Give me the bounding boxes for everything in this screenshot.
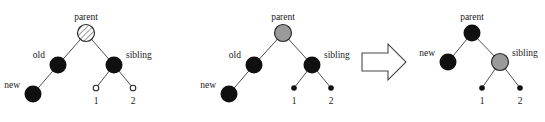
node-old[interactable] xyxy=(50,57,67,74)
label-parent: parent xyxy=(460,12,484,22)
label-new: new xyxy=(200,80,216,90)
node-new[interactable] xyxy=(440,54,457,71)
node-leaf-2[interactable] xyxy=(328,85,334,91)
node-leaf-2[interactable] xyxy=(517,85,523,91)
node-new[interactable] xyxy=(221,86,238,103)
figure-root: parent old sibling new 1 2 parent old si… xyxy=(0,0,545,122)
label-new: new xyxy=(4,80,20,90)
label-leaf-2: 2 xyxy=(518,96,523,106)
label-new: new xyxy=(419,48,435,58)
label-old: old xyxy=(33,50,45,60)
panel-tree-before-hatched: parent old sibling new 1 2 xyxy=(0,0,175,122)
node-sibling[interactable] xyxy=(492,54,509,71)
node-sibling[interactable] xyxy=(106,57,123,74)
label-leaf-1: 1 xyxy=(94,96,99,106)
arrow-right-icon xyxy=(362,44,406,80)
node-parent[interactable] xyxy=(275,25,292,42)
node-leaf-2[interactable] xyxy=(130,85,136,91)
tree-diagram-2: parent old sibling new 1 2 xyxy=(182,0,357,122)
label-leaf-2: 2 xyxy=(131,96,136,106)
node-leaf-1[interactable] xyxy=(479,85,485,91)
label-parent: parent xyxy=(74,12,98,22)
label-sibling: sibling xyxy=(126,50,152,60)
label-sibling: sibling xyxy=(324,50,350,60)
label-parent: parent xyxy=(271,12,295,22)
panel-arrow xyxy=(358,0,410,122)
node-parent[interactable] xyxy=(464,25,481,42)
tree-diagram-3: parent new sibling 1 2 xyxy=(410,0,545,122)
tree-diagram-1: parent old sibling new 1 2 xyxy=(0,0,175,122)
label-old: old xyxy=(229,50,241,60)
transformation-arrow xyxy=(358,0,410,122)
node-new[interactable] xyxy=(25,86,42,103)
node-old[interactable] xyxy=(246,57,263,74)
label-sibling: sibling xyxy=(512,48,538,58)
node-leaf-1[interactable] xyxy=(93,85,99,91)
panel-tree-before-gray: parent old sibling new 1 2 xyxy=(182,0,357,122)
node-parent[interactable] xyxy=(78,25,95,42)
label-leaf-2: 2 xyxy=(329,96,334,106)
label-leaf-1: 1 xyxy=(480,96,485,106)
node-leaf-1[interactable] xyxy=(291,85,297,91)
label-leaf-1: 1 xyxy=(292,96,297,106)
node-sibling[interactable] xyxy=(304,57,321,74)
panel-tree-after: parent new sibling 1 2 xyxy=(410,0,545,122)
